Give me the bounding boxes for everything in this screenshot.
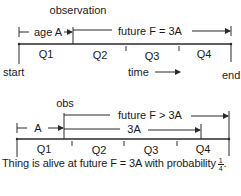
- diagram-caption: Thing is alive at future F = 3A with pro…: [2, 157, 227, 172]
- quarter-label-q4: Q4: [197, 48, 212, 60]
- quarter-label-q1-bottom: Q1: [37, 143, 52, 155]
- quarter-label-q1: Q1: [39, 48, 54, 60]
- caption-text: Thing is alive at future F = 3A with pro…: [2, 157, 216, 169]
- quarter-label-q3: Q3: [145, 50, 160, 62]
- three-a-label: 3A: [127, 123, 141, 135]
- bottom-timeline: obs future F > 3A A 3A Q1 Q2 Q3 Q4: [16, 97, 230, 157]
- quarter-label-q3-bottom: Q3: [144, 144, 159, 156]
- age-label: age A: [34, 26, 63, 38]
- observation-label: observation: [50, 4, 107, 16]
- time-label: time: [128, 66, 149, 78]
- top-timeline: observation age A future F = 3A Q1 Q2 Q3…: [3, 4, 240, 81]
- caption-end-punct: .: [224, 157, 227, 169]
- a-label: A: [34, 122, 42, 134]
- end-label: end: [222, 69, 240, 81]
- future-label: future F = 3A: [118, 25, 183, 37]
- future-gt-label: future F > 3A: [118, 109, 183, 121]
- start-label: start: [3, 66, 24, 78]
- quarter-label-q2: Q2: [93, 49, 108, 61]
- obs-label: obs: [56, 97, 74, 109]
- quarter-label-q4-bottom: Q4: [196, 143, 211, 155]
- quarter-label-q2-bottom: Q2: [92, 144, 107, 156]
